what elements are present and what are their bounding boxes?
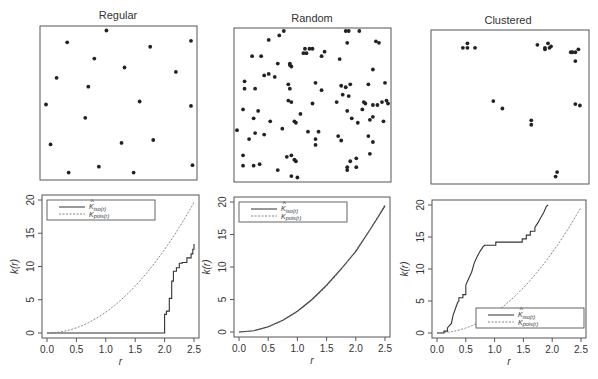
- data-point: [262, 133, 266, 137]
- data-point: [277, 34, 281, 38]
- data-point: [253, 87, 257, 91]
- y-tick-label: 20: [25, 194, 36, 206]
- data-point: [256, 109, 260, 113]
- data-point: [380, 100, 384, 104]
- data-point: [323, 50, 327, 54]
- x-tick-label: 2.5: [187, 344, 201, 355]
- data-point: [138, 100, 142, 104]
- data-point: [286, 82, 290, 86]
- data-point: [320, 54, 324, 58]
- data-point: [252, 116, 256, 120]
- data-point: [577, 47, 581, 51]
- y-axis-label: k(r): [9, 259, 20, 274]
- panel-title: Clustered: [484, 14, 531, 26]
- data-point: [529, 123, 533, 127]
- legend: Kiso(r)^Kpois(r): [47, 198, 155, 221]
- k-function-panel-2: 0.00.51.01.52.02.505101520rk(r)Kiso(r)^K…: [201, 196, 392, 366]
- data-point: [383, 81, 387, 85]
- data-point: [339, 84, 343, 88]
- data-point: [554, 175, 558, 179]
- x-tick-label: 1.0: [488, 344, 502, 355]
- data-point: [268, 119, 272, 123]
- data-point: [347, 94, 351, 98]
- data-point: [371, 115, 375, 119]
- data-point: [299, 112, 303, 116]
- y-tick-label: 5: [217, 296, 228, 302]
- data-point: [555, 170, 559, 174]
- data-point: [371, 103, 375, 107]
- data-point: [466, 46, 470, 50]
- plot-frame: [431, 30, 589, 184]
- data-point: [296, 176, 300, 180]
- data-point: [267, 38, 271, 42]
- data-point: [289, 100, 293, 104]
- k-iso-line: [239, 206, 385, 332]
- panel-title: Regular: [99, 9, 138, 21]
- data-point: [377, 41, 381, 45]
- x-axis-label: r: [119, 356, 123, 367]
- y-tick-label: 20: [415, 199, 426, 211]
- data-point: [148, 45, 152, 49]
- x-tick-label: 0.0: [430, 344, 444, 355]
- data-point: [350, 116, 354, 120]
- data-point: [382, 119, 386, 123]
- data-point: [247, 137, 251, 141]
- x-tick-label: 2.0: [158, 344, 172, 355]
- data-point: [335, 100, 339, 104]
- x-tick-label: 2.0: [349, 343, 363, 354]
- k-function-panel-3: 0.00.51.01.52.02.505101520rk(r)Kiso(r)^K…: [399, 199, 588, 367]
- data-point: [338, 57, 342, 61]
- data-point: [348, 159, 352, 163]
- x-axis-label: r: [310, 355, 314, 366]
- scatter-panel-clustered: Clustered: [431, 14, 589, 184]
- data-point: [336, 134, 340, 138]
- data-point: [491, 99, 495, 103]
- data-point: [345, 41, 349, 45]
- data-point: [289, 153, 293, 157]
- data-point: [461, 46, 465, 50]
- data-point: [235, 128, 239, 132]
- data-point: [105, 29, 109, 33]
- data-point: [276, 168, 280, 172]
- data-point: [285, 155, 289, 159]
- y-tick-label: 15: [25, 227, 36, 239]
- data-point: [92, 57, 96, 61]
- x-tick-label: 2.5: [378, 343, 392, 354]
- data-point: [294, 159, 298, 163]
- data-point: [317, 130, 321, 134]
- data-point: [311, 102, 315, 106]
- data-point: [55, 76, 59, 80]
- data-point: [314, 137, 318, 141]
- data-point: [302, 51, 306, 55]
- y-tick-label: 0: [217, 329, 228, 335]
- data-point: [288, 87, 292, 91]
- y-tick-label: 5: [25, 297, 36, 303]
- figure-canvas: RegularRandomClustered0.00.51.01.52.02.5…: [0, 0, 598, 379]
- data-point: [253, 131, 257, 135]
- data-point: [360, 108, 364, 112]
- data-point: [282, 29, 286, 33]
- data-point: [466, 41, 470, 45]
- x-tick-label: 0.5: [459, 344, 473, 355]
- x-tick-label: 0.0: [232, 343, 246, 354]
- data-point: [151, 138, 155, 142]
- data-point: [371, 68, 375, 72]
- data-point: [273, 75, 277, 79]
- y-tick-label: 15: [415, 231, 426, 243]
- data-point: [191, 163, 195, 167]
- x-tick-label: 0.5: [69, 344, 83, 355]
- x-tick-label: 1.5: [516, 344, 530, 355]
- data-point: [386, 102, 390, 106]
- data-point: [250, 54, 254, 58]
- scatter-panel-regular: Regular: [40, 9, 197, 180]
- data-point: [345, 109, 349, 113]
- data-point: [267, 72, 271, 76]
- y-axis-label: k(r): [201, 260, 212, 275]
- k-iso-line: [47, 244, 194, 333]
- data-point: [535, 43, 539, 47]
- data-point: [368, 118, 372, 122]
- data-point: [341, 93, 345, 97]
- data-point: [289, 65, 293, 69]
- y-tick-label: 0: [415, 330, 426, 336]
- y-axis-label: k(r): [399, 262, 410, 277]
